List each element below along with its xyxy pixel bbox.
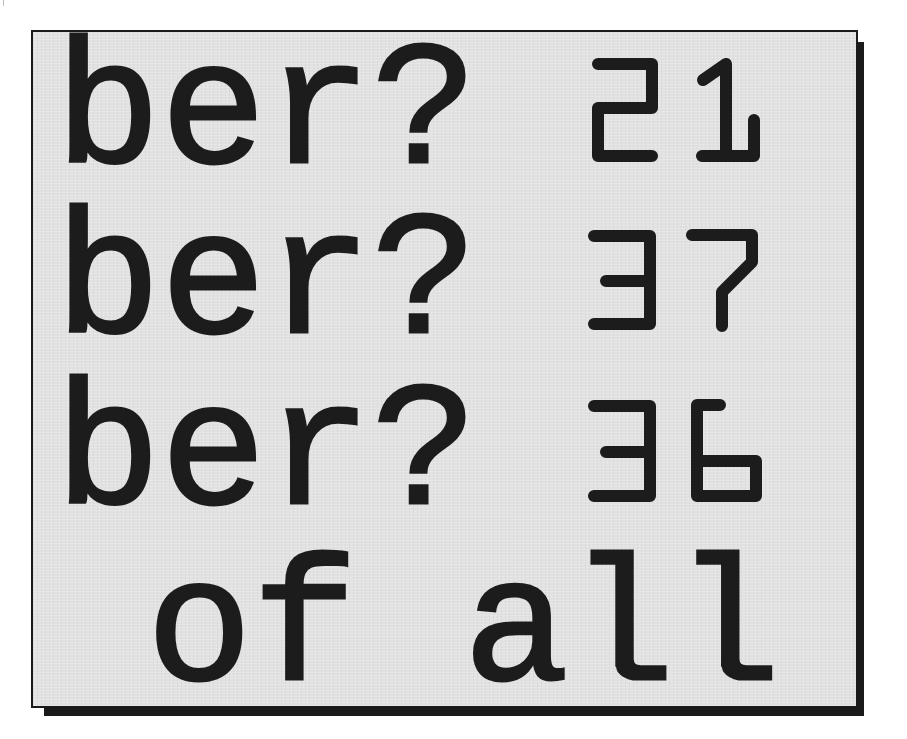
- text-line-2: ber?: [55, 200, 477, 370]
- text-line-4: of all: [41, 547, 780, 708]
- text-line-3: ber?: [55, 371, 477, 541]
- text-line-1: ber?: [55, 30, 477, 200]
- text-panel: ber? ber? ber? of all: [31, 30, 858, 708]
- edge-mark: [3, 0, 4, 6]
